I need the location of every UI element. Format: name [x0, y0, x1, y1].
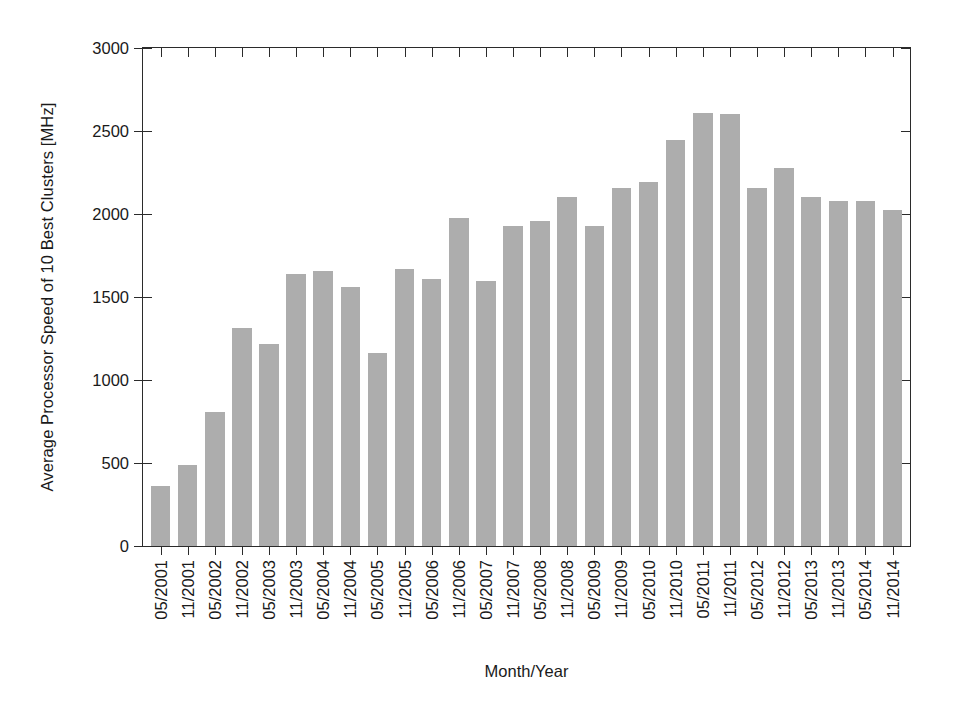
y-axis-tick-label: 2500 [92, 122, 129, 141]
bar[interactable] [503, 226, 523, 546]
bar[interactable] [666, 140, 686, 546]
bar-slot[interactable]: 05/2004 [310, 48, 337, 546]
bar-slot[interactable]: 05/2007 [472, 48, 499, 546]
x-axis-tick-top [296, 48, 297, 57]
bar[interactable] [747, 188, 767, 546]
bar[interactable] [856, 201, 876, 546]
x-axis-tick-top [567, 48, 568, 57]
bar[interactable] [585, 226, 605, 546]
x-axis-tick-label: 05/2006 [422, 560, 441, 620]
bar[interactable] [286, 274, 306, 546]
y-axis-tick-label: 500 [101, 454, 129, 473]
bar[interactable] [341, 287, 361, 546]
bar-slot[interactable]: 11/2001 [174, 48, 201, 546]
bar-slot[interactable]: 11/2010 [662, 48, 689, 546]
x-axis-tick [350, 546, 351, 555]
bar-slot[interactable]: 11/2011 [716, 48, 743, 546]
bar-slot[interactable]: 05/2002 [201, 48, 228, 546]
x-axis-tick [242, 546, 243, 555]
bar-slot[interactable]: 11/2005 [391, 48, 418, 546]
x-axis-tick-label: 05/2014 [856, 560, 875, 620]
bar-slot[interactable]: 11/2009 [608, 48, 635, 546]
x-axis-tick [432, 546, 433, 555]
bar-slot[interactable]: 05/2006 [418, 48, 445, 546]
y-axis-tick [134, 131, 143, 132]
x-axis-tick-label: 11/2008 [558, 560, 577, 618]
bar[interactable] [639, 182, 659, 546]
y-axis-tick-right [901, 546, 910, 547]
bar[interactable] [557, 197, 577, 546]
bar[interactable] [395, 269, 415, 546]
x-axis-tick-label: 11/2012 [775, 560, 794, 618]
bar[interactable] [612, 188, 632, 546]
bar-slot[interactable]: 05/2011 [689, 48, 716, 546]
bar-slot[interactable]: 05/2012 [743, 48, 770, 546]
bar[interactable] [449, 218, 469, 546]
bar-slot[interactable]: 05/2008 [527, 48, 554, 546]
bar[interactable] [720, 114, 740, 546]
bar-slot[interactable]: 11/2008 [554, 48, 581, 546]
bar[interactable] [774, 168, 794, 546]
bar-slot[interactable]: 05/2014 [852, 48, 879, 546]
x-axis-tick-top [405, 48, 406, 57]
bar[interactable] [693, 113, 713, 546]
bar[interactable] [476, 281, 496, 546]
x-axis-tick-top [188, 48, 189, 57]
bar-slot[interactable]: 05/2009 [581, 48, 608, 546]
bar[interactable] [801, 197, 821, 546]
x-axis-tick [188, 546, 189, 555]
x-axis-tick [784, 546, 785, 555]
x-axis-tick-label: 05/2007 [476, 560, 495, 620]
x-axis-tick [161, 546, 162, 555]
bar-slot[interactable]: 11/2012 [771, 48, 798, 546]
bar[interactable] [422, 279, 442, 546]
y-axis-tick-label: 3000 [92, 39, 129, 58]
bar-slot[interactable]: 05/2013 [798, 48, 825, 546]
x-axis-tick [405, 546, 406, 555]
x-axis-tick-top [540, 48, 541, 57]
bar[interactable] [259, 344, 279, 546]
bar[interactable] [829, 201, 849, 546]
bar-slot[interactable]: 05/2001 [147, 48, 174, 546]
y-axis-tick-label: 2000 [92, 205, 129, 224]
bar-slot[interactable]: 11/2004 [337, 48, 364, 546]
bar[interactable] [313, 271, 333, 546]
x-axis-tick-label: 11/2003 [287, 560, 306, 618]
x-axis-tick-top [893, 48, 894, 57]
x-axis-tick-label: 05/2001 [151, 560, 170, 620]
bar[interactable] [232, 328, 252, 546]
bar[interactable] [151, 486, 171, 546]
x-axis-tick-top [215, 48, 216, 57]
bar[interactable] [368, 353, 388, 546]
bar[interactable] [530, 221, 550, 546]
x-axis-tick-top [486, 48, 487, 57]
bar[interactable] [205, 412, 225, 546]
x-axis-tick-label: 05/2005 [368, 560, 387, 620]
x-axis-tick-label: 11/2006 [449, 560, 468, 618]
x-axis-tick-label: 11/2005 [395, 560, 414, 618]
bar-slot[interactable]: 11/2006 [445, 48, 472, 546]
bar-slot[interactable]: 11/2007 [499, 48, 526, 546]
x-axis-tick-top [838, 48, 839, 57]
bar[interactable] [178, 465, 198, 546]
x-axis-tick-label: 05/2010 [639, 560, 658, 620]
bar-slot[interactable]: 05/2005 [364, 48, 391, 546]
bar-slot[interactable]: 11/2014 [879, 48, 906, 546]
x-axis-tick [594, 546, 595, 555]
x-axis-tick [730, 546, 731, 555]
x-axis-tick-top [350, 48, 351, 57]
y-axis-tick-label: 0 [120, 537, 129, 556]
bar[interactable] [883, 210, 903, 546]
bar-slot[interactable]: 05/2010 [635, 48, 662, 546]
bar-slot[interactable]: 11/2013 [825, 48, 852, 546]
x-axis-tick [757, 546, 758, 555]
y-axis-tick [134, 380, 143, 381]
x-axis-tick-label: 11/2002 [232, 560, 251, 618]
y-axis-title: Average Processor Speed of 10 Best Clust… [30, 47, 64, 547]
bar-slot[interactable]: 11/2002 [228, 48, 255, 546]
bar-slot[interactable]: 05/2003 [255, 48, 282, 546]
x-axis-tick-label: 11/2004 [341, 560, 360, 618]
x-axis-tick-label: 05/2008 [531, 560, 550, 620]
x-axis-tick [676, 546, 677, 555]
bar-slot[interactable]: 11/2003 [283, 48, 310, 546]
